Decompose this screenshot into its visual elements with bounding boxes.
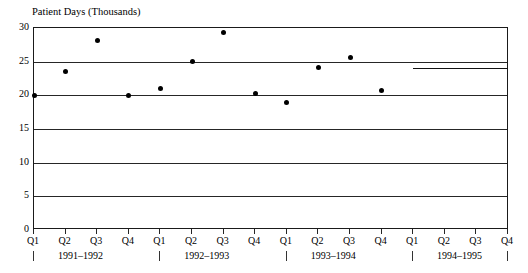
group-separator [33, 251, 34, 261]
gridline [34, 163, 507, 164]
data-point [221, 30, 226, 35]
x-axis-tick-label: Q1 [397, 234, 427, 247]
group-separator [286, 251, 287, 261]
x-axis-group-label: 1991–1992 [35, 249, 125, 263]
data-point [126, 93, 131, 98]
gridline [34, 196, 507, 197]
x-axis-tick-label: Q2 [302, 234, 332, 247]
group-separator [507, 251, 508, 261]
y-axis-tick-label: 15 [3, 123, 29, 133]
x-axis-tick-label: Q3 [81, 234, 111, 247]
x-axis-group-label: 1993–1994 [288, 249, 378, 263]
y-axis-tick-label: 10 [3, 157, 29, 167]
x-axis-labels: Q1Q2Q3Q4Q1Q2Q3Q4Q1Q2Q3Q4Q1Q2Q3Q4 [0, 234, 528, 248]
x-axis-tick-label: Q4 [492, 234, 522, 247]
y-axis-tick-label: 5 [3, 190, 29, 200]
chart-title: Patient Days (Thousands) [32, 6, 140, 18]
plot-area [33, 27, 508, 229]
x-axis-tick-label: Q4 [239, 234, 269, 247]
x-axis-group-label: 1994–1995 [415, 249, 505, 263]
y-axis-tick-label: 0 [3, 224, 29, 234]
x-axis-tick-label: Q1 [144, 234, 174, 247]
data-point [348, 55, 353, 60]
x-axis-tick-label: Q2 [50, 234, 80, 247]
group-separator [412, 251, 413, 261]
y-axis-tick-label: 30 [3, 22, 29, 32]
chart-figure: Patient Days (Thousands) 302520151050 Q1… [0, 0, 528, 273]
group-separator [159, 251, 160, 261]
data-point [158, 86, 163, 91]
x-axis-group-label: 1992–1993 [162, 249, 252, 263]
x-axis-group-labels: 1991–19921992–19931993–19941994–1995 [0, 249, 528, 265]
gridline [34, 62, 507, 63]
x-axis-tick-label: Q1 [271, 234, 301, 247]
reference-line [413, 68, 508, 69]
data-point [32, 93, 37, 98]
data-point [63, 69, 68, 74]
x-axis-tick-label: Q2 [429, 234, 459, 247]
y-axis-tick-label: 25 [3, 56, 29, 66]
x-axis-tick-label: Q3 [208, 234, 238, 247]
data-point [379, 88, 384, 93]
data-point [316, 65, 321, 70]
data-point [190, 59, 195, 64]
y-axis-tick-label: 20 [3, 89, 29, 99]
x-axis-tick-label: Q4 [113, 234, 143, 247]
x-axis-tick-label: Q2 [176, 234, 206, 247]
data-point [284, 100, 289, 105]
y-axis: 302520151050 [0, 27, 29, 229]
data-point [95, 38, 100, 43]
x-axis-tick-label: Q3 [460, 234, 490, 247]
gridline [34, 95, 507, 96]
x-axis-tick-label: Q4 [366, 234, 396, 247]
gridline [34, 129, 507, 130]
x-axis-tick-label: Q3 [334, 234, 364, 247]
x-axis-tick-label: Q1 [18, 234, 48, 247]
